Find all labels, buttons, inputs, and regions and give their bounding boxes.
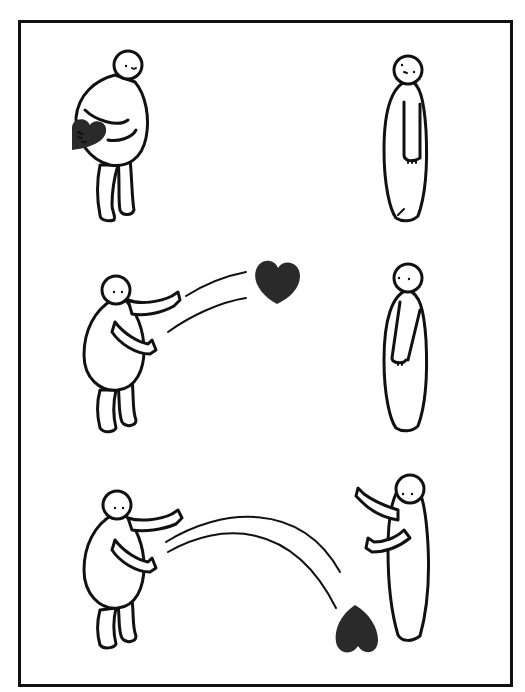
panel-3: [84, 475, 429, 652]
comic-illustration: [0, 0, 525, 692]
figure-standing-unaware: [384, 264, 427, 431]
trajectory-arc-inner: [168, 533, 336, 608]
panel-2: [84, 261, 427, 432]
panel-1: [72, 51, 427, 221]
figure-after-throw: [84, 491, 182, 648]
heart-icon: [255, 261, 300, 304]
trajectory-arc: [166, 517, 340, 572]
figure-throwing: [84, 261, 300, 432]
figure-hugging-heart: [72, 51, 148, 221]
heart-icon: [336, 605, 378, 652]
figure-standing-waiting: [384, 56, 427, 221]
